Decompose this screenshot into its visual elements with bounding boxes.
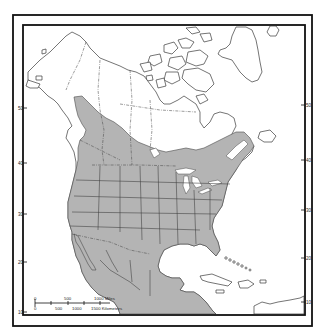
range-map: 50 40 30 20 10 50 40 30 20 10 0 500 1000… — [0, 0, 328, 336]
lat-label: 50 — [18, 106, 24, 111]
scale-miles-1000: 1000 Miles — [94, 296, 115, 301]
scale-km-0: 0 — [34, 306, 37, 311]
greenland — [218, 27, 262, 82]
lat-label: 10 — [306, 300, 312, 305]
lat-label: 20 — [306, 256, 312, 261]
latitude-labels-right: 50 40 30 20 10 — [301, 103, 312, 305]
map-content — [26, 26, 304, 314]
lat-label: 20 — [18, 260, 24, 265]
iceland — [267, 26, 279, 36]
scale-miles-0: 0 — [34, 296, 37, 301]
lat-label: 30 — [18, 212, 24, 217]
scale-km-500: 500 — [55, 306, 63, 311]
scale-km-1500: 1500 Kilometers — [91, 306, 122, 311]
caribbean-islands — [200, 257, 304, 314]
lat-label: 40 — [18, 161, 24, 166]
lat-label: 40 — [306, 158, 312, 163]
scale-km-1000: 1000 — [72, 306, 82, 311]
lat-label: 50 — [306, 103, 312, 108]
scale-bar: 0 500 1000 Miles 0 500 1000 1500 Kilomet… — [34, 296, 122, 311]
lat-label: 10 — [18, 310, 24, 315]
scale-miles-500: 500 — [64, 296, 72, 301]
newfoundland — [258, 130, 276, 142]
lat-label: 30 — [306, 208, 312, 213]
